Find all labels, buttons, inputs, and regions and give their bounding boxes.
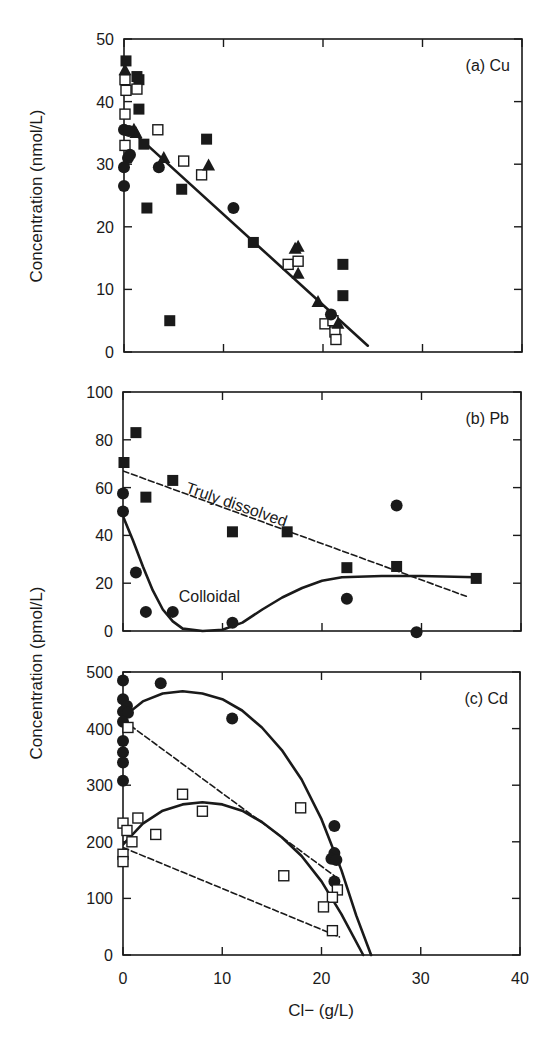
marker-filled-circle bbox=[117, 674, 129, 686]
dashed-fit-line bbox=[123, 720, 334, 876]
marker-filled-triangle bbox=[202, 158, 215, 170]
y-tick-label: 60 bbox=[95, 480, 113, 497]
marker-filled-square bbox=[138, 139, 149, 150]
marker-open-square bbox=[121, 85, 131, 95]
marker-open-square bbox=[279, 871, 289, 881]
marker-filled-square bbox=[140, 492, 151, 503]
figure: 01020304050(a) Cu 020406080100(b) PbTrul… bbox=[0, 0, 557, 1050]
curve-annotation: Truly dissolved bbox=[184, 479, 290, 530]
y-tick-label: 80 bbox=[95, 432, 113, 449]
marker-open-square bbox=[118, 857, 128, 867]
marker-filled-circle bbox=[123, 125, 135, 137]
x-tick-label: 0 bbox=[119, 970, 128, 987]
marker-filled-square bbox=[282, 526, 293, 537]
x-axis-label: Cl− (g/L) bbox=[288, 1001, 354, 1020]
dashed-fit-line bbox=[123, 471, 466, 596]
marker-filled-circle bbox=[130, 566, 142, 578]
marker-filled-circle bbox=[226, 617, 238, 629]
curve-annotation: Colloidal bbox=[179, 588, 240, 605]
y-tick-label: 100 bbox=[86, 890, 113, 907]
marker-filled-square bbox=[164, 315, 175, 326]
marker-open-square bbox=[327, 892, 337, 902]
marker-open-square bbox=[296, 803, 306, 813]
y-tick-label: 30 bbox=[96, 156, 114, 173]
y-tick-label: 500 bbox=[86, 664, 113, 681]
marker-filled-square bbox=[118, 457, 129, 468]
marker-filled-circle bbox=[155, 677, 167, 689]
marker-filled-circle bbox=[117, 506, 129, 518]
marker-filled-square bbox=[227, 526, 238, 537]
marker-filled-square bbox=[337, 290, 348, 301]
panel-c-cd: 0102030400100200300400500(c) Cd bbox=[86, 664, 529, 987]
marker-open-square bbox=[197, 806, 207, 816]
marker-filled-square bbox=[201, 134, 212, 145]
marker-filled-square bbox=[248, 237, 259, 248]
marker-open-square bbox=[327, 926, 337, 936]
panel-label: (c) Cd bbox=[464, 690, 508, 707]
y-tick-label: 0 bbox=[104, 623, 113, 640]
marker-open-square bbox=[132, 84, 142, 94]
marker-filled-circle bbox=[391, 500, 403, 512]
marker-open-square bbox=[123, 722, 133, 732]
panel-a-cu: 01020304050(a) Cu bbox=[96, 31, 522, 361]
y-tick-label: 40 bbox=[96, 94, 114, 111]
y-tick-label: 300 bbox=[86, 777, 113, 794]
marker-filled-circle bbox=[118, 180, 130, 192]
marker-open-square bbox=[197, 170, 207, 180]
marker-filled-circle bbox=[117, 757, 129, 769]
marker-filled-circle bbox=[226, 712, 238, 724]
y-tick-label: 200 bbox=[86, 834, 113, 851]
marker-open-square bbox=[283, 259, 293, 269]
marker-filled-circle bbox=[330, 854, 342, 866]
marker-open-square bbox=[120, 75, 130, 85]
panel-label: (a) Cu bbox=[466, 57, 510, 74]
marker-filled-circle bbox=[341, 593, 353, 605]
marker-open-square bbox=[293, 256, 303, 266]
y-tick-label: 40 bbox=[95, 527, 113, 544]
marker-filled-square bbox=[167, 475, 178, 486]
marker-filled-square bbox=[141, 203, 152, 214]
y-axis-label-pb-cd: Concentration (pmol/L) bbox=[27, 587, 46, 760]
marker-filled-square bbox=[176, 184, 187, 195]
marker-filled-circle bbox=[117, 775, 129, 787]
marker-filled-circle bbox=[117, 488, 129, 500]
marker-open-square bbox=[331, 334, 341, 344]
marker-filled-circle bbox=[328, 820, 340, 832]
marker-open-square bbox=[153, 125, 163, 135]
marker-open-square bbox=[178, 789, 188, 799]
marker-filled-circle bbox=[118, 161, 130, 173]
y-tick-label: 0 bbox=[104, 947, 113, 964]
y-tick-label: 20 bbox=[96, 219, 114, 236]
marker-filled-square bbox=[133, 104, 144, 115]
marker-open-square bbox=[151, 829, 161, 839]
x-tick-label: 40 bbox=[511, 970, 529, 987]
x-tick-label: 30 bbox=[412, 970, 430, 987]
marker-filled-square bbox=[130, 427, 141, 438]
marker-open-square bbox=[133, 813, 143, 823]
marker-filled-square bbox=[471, 573, 482, 584]
y-axis-label-cu: Concentration (nmol/L) bbox=[27, 110, 46, 283]
y-tick-label: 10 bbox=[96, 281, 114, 298]
marker-filled-circle bbox=[153, 161, 165, 173]
marker-filled-square bbox=[341, 562, 352, 573]
marker-filled-circle bbox=[167, 606, 179, 618]
marker-filled-square bbox=[120, 55, 131, 66]
marker-open-square bbox=[318, 902, 328, 912]
marker-open-square bbox=[120, 109, 130, 119]
marker-open-square bbox=[122, 825, 132, 835]
marker-filled-circle bbox=[411, 626, 423, 638]
y-tick-label: 100 bbox=[86, 384, 113, 401]
marker-filled-circle bbox=[325, 308, 337, 320]
marker-filled-circle bbox=[117, 735, 129, 747]
marker-open-square bbox=[179, 156, 189, 166]
x-tick-label: 20 bbox=[313, 970, 331, 987]
panel-label: (b) Pb bbox=[465, 410, 509, 427]
y-tick-label: 0 bbox=[105, 344, 114, 361]
marker-open-square bbox=[120, 140, 130, 150]
marker-filled-circle bbox=[227, 202, 239, 214]
marker-open-square bbox=[127, 837, 137, 847]
y-tick-label: 20 bbox=[95, 575, 113, 592]
marker-filled-circle bbox=[124, 149, 136, 161]
panel-b-pb: 020406080100(b) PbTruly dissolvedColloid… bbox=[86, 384, 521, 640]
marker-filled-square bbox=[391, 561, 402, 572]
